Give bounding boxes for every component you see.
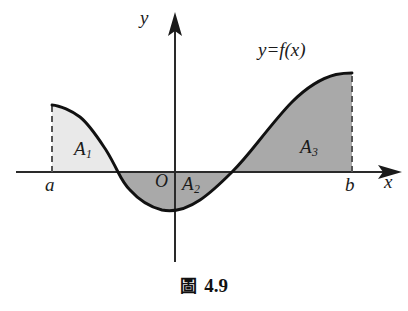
figure-caption-number: 4.9 [204, 275, 228, 296]
y-axis-label: y [140, 8, 148, 27]
curve-equation-label: y=f(x) [258, 40, 306, 59]
area-label-a1-name: A [74, 138, 86, 159]
function-plot [0, 0, 408, 311]
area-region-a3 [232, 73, 352, 172]
area-label-a2: A2 [182, 174, 200, 196]
x-tick-label-b: b [345, 175, 355, 194]
figure-caption: 圖4.9 [0, 272, 408, 297]
area-label-a3: A3 [300, 137, 318, 159]
area-label-a1-subscript: 1 [86, 148, 92, 161]
x-tick-label-a: a [45, 175, 55, 194]
area-label-a3-subscript: 3 [312, 146, 318, 159]
origin-label: O [155, 172, 168, 190]
x-axis-label: x [384, 172, 392, 191]
area-label-a3-name: A [300, 136, 312, 157]
area-label-a2-subscript: 2 [194, 183, 200, 196]
area-label-a1: A1 [74, 139, 92, 161]
figure-container: y=f(x) y x a b O A1 A2 A3 圖4.9 [0, 0, 408, 311]
figure-caption-label: 圖 [180, 276, 197, 296]
area-label-a2-name: A [182, 173, 194, 194]
